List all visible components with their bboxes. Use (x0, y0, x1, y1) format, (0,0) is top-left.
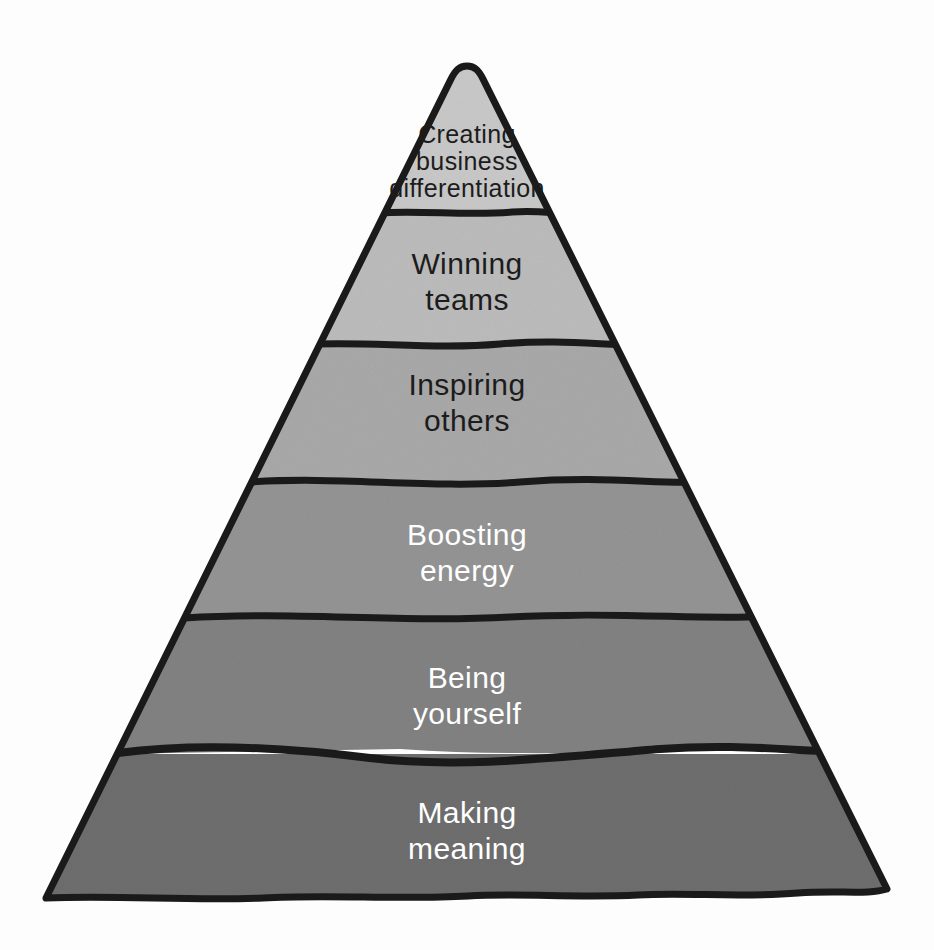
divider-2-3 (296, 342, 660, 346)
tier-1-line-2: business (416, 147, 518, 175)
tier-5-line-1: Being (428, 661, 507, 694)
tier-6-line-1: Making (417, 796, 516, 829)
tier-3-line-1: Inspiring (409, 368, 526, 401)
pyramid-figure: Creating business differentiation Winnin… (0, 0, 934, 950)
tier-1-line-3: differentiation (389, 174, 545, 202)
tier-5-line-2: yourself (413, 697, 522, 730)
tier-6-line-2: meaning (408, 832, 526, 865)
tier-4-line-2: energy (420, 554, 514, 587)
divider-1-2 (378, 211, 568, 213)
divider-4-5 (184, 615, 772, 619)
tier-2-line-1: Winning (411, 247, 522, 280)
tier-3-line-2: others (424, 404, 510, 437)
pyramid-diagram: Creating business differentiation Winnin… (0, 0, 934, 950)
tier-4-line-1: Boosting (407, 518, 527, 551)
tier-2-line-2: teams (425, 283, 509, 316)
tier-fill-4 (180, 483, 770, 619)
tier-1-line-1: Creating (418, 120, 516, 148)
